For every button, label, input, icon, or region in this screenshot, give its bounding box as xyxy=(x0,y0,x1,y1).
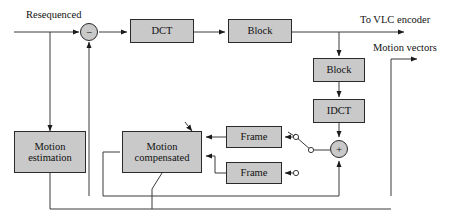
frame-store-upper-label: Frame xyxy=(241,131,268,142)
motion-estimation-label-line1: Motion xyxy=(35,141,66,152)
block-dequantizer-block[interactable]: Block xyxy=(313,58,365,82)
switch-contact-mid-open-icon xyxy=(308,147,313,152)
frame-store-lower-label: Frame xyxy=(241,167,268,178)
motion-estimation-block[interactable]: Motion estimation xyxy=(14,131,86,173)
block-diagram-canvas: DCT Block Block IDCT Frame Frame Motion … xyxy=(0,0,454,222)
wire-feedback-into-motion-compensated-top xyxy=(185,122,192,131)
block-dequantizer-label: Block xyxy=(326,64,351,75)
switch-contact-upper-open-icon xyxy=(293,134,298,139)
add-summing-junction[interactable]: + xyxy=(330,140,348,158)
dct-block[interactable]: DCT xyxy=(130,19,194,43)
frame-store-upper-block[interactable]: Frame xyxy=(226,126,282,148)
subtract-summing-junction[interactable]: − xyxy=(80,23,98,41)
wire-motion-estimation-to-bottom-rail xyxy=(50,173,391,209)
subtract-sign: − xyxy=(86,27,92,38)
block-quantizer-label: Block xyxy=(247,25,272,36)
wire-motion-vectors-output xyxy=(391,59,417,196)
motion-compensated-label-line1: Motion xyxy=(147,141,178,152)
idct-block-label: IDCT xyxy=(327,105,352,116)
block-quantizer-block[interactable]: Block xyxy=(228,19,292,43)
wire-frame-lower-to-motion-compensated xyxy=(206,156,226,173)
frame-store-lower-block[interactable]: Frame xyxy=(226,162,282,184)
wire-layer xyxy=(0,0,454,222)
add-sign: + xyxy=(336,144,342,155)
motion-vectors-label: Motion vectors xyxy=(373,42,437,53)
dct-block-label: DCT xyxy=(152,25,173,36)
switch-contact-lower-open-icon xyxy=(293,170,298,175)
motion-compensated-block[interactable]: Motion compensated xyxy=(122,131,202,173)
idct-block[interactable]: IDCT xyxy=(313,99,365,123)
wire-motion-compensated-bottom-stub xyxy=(152,173,162,209)
motion-compensated-label-line2: compensated xyxy=(135,152,190,163)
motion-estimation-label-line2: estimation xyxy=(28,152,72,163)
to-vlc-encoder-label: To VLC encoder xyxy=(360,14,430,25)
resequenced-input-label: Resequenced xyxy=(26,9,81,20)
